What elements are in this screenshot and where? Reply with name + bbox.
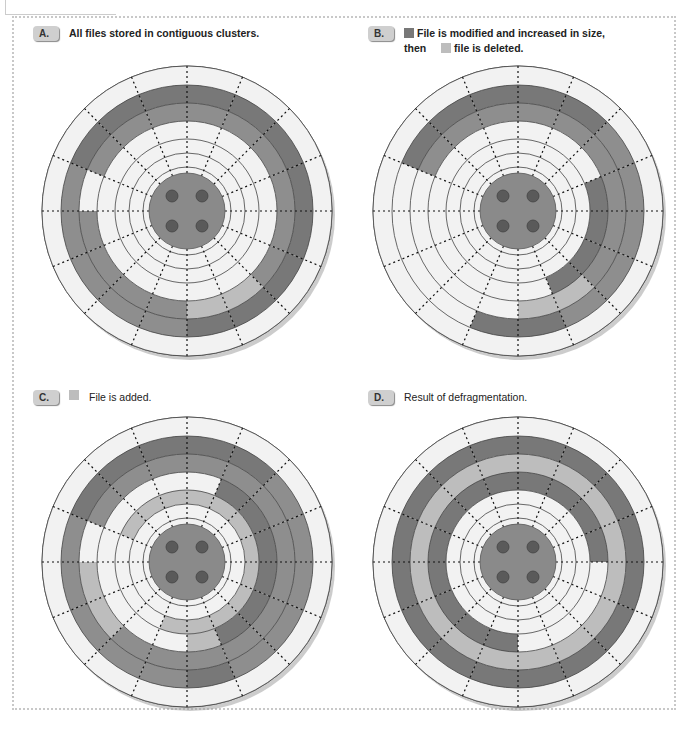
disk-b [373, 66, 666, 360]
disk-hub [480, 524, 556, 600]
disk-d [373, 417, 666, 711]
spindle-hole [196, 541, 208, 553]
spindle-hole [527, 220, 539, 232]
spindle-hole [196, 571, 208, 583]
disk-hub [149, 173, 225, 249]
spindle-hole [166, 541, 178, 553]
disk-a [42, 66, 335, 360]
spindle-hole [166, 190, 178, 202]
spindle-hole [497, 220, 509, 232]
disk-hub [480, 173, 556, 249]
spindle-hole [166, 571, 178, 583]
spindle-hole [166, 220, 178, 232]
spindle-hole [196, 190, 208, 202]
spindle-hole [497, 571, 509, 583]
spindle-hole [497, 541, 509, 553]
spindle-hole [527, 541, 539, 553]
disk-c [42, 417, 335, 711]
disk-hub [149, 524, 225, 600]
spindle-hole [527, 571, 539, 583]
spindle-hole [196, 220, 208, 232]
disk-diagrams [0, 0, 696, 747]
spindle-hole [497, 190, 509, 202]
spindle-hole [527, 190, 539, 202]
